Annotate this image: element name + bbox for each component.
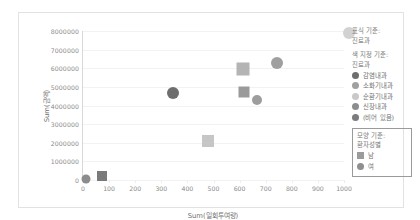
x-axis-tick-label: 100 (103, 185, 115, 192)
color-legend-item[interactable]: 감염내과 (352, 70, 420, 81)
y-axis-tick-label: 3000000 (51, 121, 79, 128)
x-tick-mark (135, 180, 136, 183)
color-legend-label: 감염내과 (363, 71, 387, 80)
color-legend: 색 지정 기준: 진료과 감염내과소화기내과순환기내과신장내과(비어 있음) (352, 51, 420, 123)
y-axis-tick-label: 1000000 (51, 158, 79, 165)
plot-area: 0100000020000003000000400000050000006000… (82, 31, 344, 181)
data-point[interactable] (239, 87, 250, 98)
color-swatch-icon (352, 103, 359, 110)
x-axis-tick-label: 600 (234, 185, 246, 192)
shape-legend-label: 남 (368, 151, 374, 160)
shape-legend-label: 여 (368, 162, 374, 171)
color-legend-caption-line1: 색 지정 기준: (352, 51, 420, 61)
color-legend-item[interactable]: 신장내과 (352, 102, 420, 113)
color-swatch-icon (352, 72, 359, 79)
y-gridline (83, 50, 344, 51)
y-axis-tick-label: 2000000 (51, 139, 79, 146)
y-gridline (83, 124, 344, 125)
x-tick-mark (292, 180, 293, 183)
x-tick-mark (318, 180, 319, 183)
y-axis-tick-label: 5000000 (51, 83, 79, 90)
x-axis-tick-label: 0 (81, 185, 85, 192)
shape-legend: 모양 기준: 환자성별 남여 (352, 128, 412, 177)
data-point[interactable] (97, 171, 107, 181)
mark-legend-caption-line1: 표식 기준: (352, 27, 420, 37)
y-gridline (83, 31, 344, 32)
x-tick-mark (109, 180, 110, 183)
chart-frame: Sum(금액) Sum(일회투여량) 010000002000000300000… (18, 12, 404, 208)
x-axis-tick-label: 1000 (336, 185, 352, 192)
circle-marker-icon (357, 163, 364, 170)
x-axis-tick-label: 800 (286, 185, 298, 192)
mark-legend-caption-line2: 진료과 (352, 37, 420, 47)
y-gridline (83, 68, 344, 69)
data-point[interactable] (167, 87, 179, 99)
scatter-plot-visualization: Sum(금액) Sum(일회투여량) 010000002000000300000… (0, 0, 420, 220)
y-axis-title: Sum(금액) (41, 90, 51, 123)
color-legend-label: 신장내과 (363, 102, 387, 111)
shape-legend-caption-line2: 환자성별 (357, 141, 407, 151)
x-axis-tick-label: 300 (155, 185, 167, 192)
color-swatch-icon (352, 93, 359, 100)
color-legend-label: 소화기내과 (363, 81, 393, 90)
color-legend-item[interactable]: 소화기내과 (352, 81, 420, 92)
data-point[interactable] (271, 57, 283, 69)
shape-legend-items: 남여 (357, 151, 407, 172)
y-axis-tick-label: 8000000 (51, 28, 79, 35)
shape-legend-caption-line1: 모양 기준: (357, 132, 407, 142)
x-tick-mark (266, 180, 267, 183)
y-axis-tick-label: 4000000 (51, 102, 79, 109)
x-tick-mark (187, 180, 188, 183)
x-tick-mark (240, 180, 241, 183)
x-tick-mark (344, 180, 345, 183)
x-axis-tick-label: 900 (312, 185, 324, 192)
x-axis-tick-label: 400 (181, 185, 193, 192)
shape-legend-item[interactable]: 여 (357, 161, 407, 172)
x-axis-title: Sum(일회투여량) (188, 210, 239, 220)
color-legend-caption-line2: 진료과 (352, 61, 420, 71)
color-legend-label: 순환기내과 (363, 92, 393, 101)
x-axis-tick-label: 500 (208, 185, 220, 192)
y-axis-tick-label: 0 (75, 177, 79, 184)
color-legend-item[interactable]: (비어 있음) (352, 112, 420, 123)
square-marker-icon (357, 152, 364, 159)
y-gridline (83, 161, 344, 162)
y-axis-tick-label: 7000000 (51, 46, 79, 53)
shape-legend-item[interactable]: 남 (357, 151, 407, 162)
color-legend-item[interactable]: 순환기내과 (352, 91, 420, 102)
data-point[interactable] (252, 95, 262, 105)
legend-panel: 표식 기준: 진료과 색 지정 기준: 진료과 감염내과소화기내과순환기내과신장… (352, 27, 420, 177)
data-point[interactable] (81, 175, 90, 184)
x-axis-tick-label: 700 (260, 185, 272, 192)
y-gridline (83, 87, 344, 88)
color-swatch-icon (352, 82, 359, 89)
x-tick-mark (214, 180, 215, 183)
x-axis-tick-label: 200 (129, 185, 141, 192)
y-gridline (83, 106, 344, 107)
y-axis-tick-label: 6000000 (51, 65, 79, 72)
data-point[interactable] (202, 135, 214, 147)
color-legend-items: 감염내과소화기내과순환기내과신장내과(비어 있음) (352, 70, 420, 123)
color-legend-label: (비어 있음) (363, 113, 394, 122)
data-point[interactable] (236, 62, 249, 75)
color-swatch-icon (352, 114, 359, 121)
mark-legend: 표식 기준: 진료과 (352, 27, 420, 46)
x-tick-mark (161, 180, 162, 183)
